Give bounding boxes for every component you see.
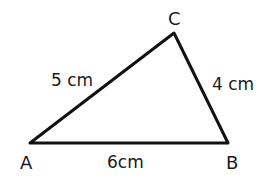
vertex-label-a: A: [20, 152, 33, 173]
triangle-diagram: A B C 5 cm 4 cm 6cm: [0, 0, 272, 178]
side-label-ac: 5 cm: [51, 70, 93, 90]
vertex-label-b: B: [226, 152, 238, 173]
vertex-label-c: C: [168, 8, 181, 29]
side-label-ab: 6cm: [107, 152, 144, 172]
side-label-cb: 4 cm: [212, 74, 254, 94]
